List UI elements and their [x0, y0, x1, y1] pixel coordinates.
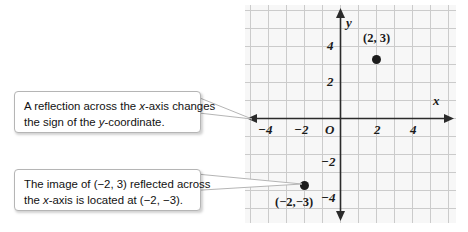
y-axis-label: y [346, 15, 352, 31]
x-axis-label: x [433, 93, 440, 109]
origin-label: O [325, 122, 334, 138]
plot-point-2-3 [372, 55, 381, 64]
x-axis-left-arrowhead [247, 114, 257, 123]
callout-image-location-line2: the x-axis is located at (−2, −3). [24, 193, 191, 208]
callout-image-location-line1: The image of (−2, 3) reflected across [24, 177, 191, 192]
y-tick-label-neg4: −4 [321, 190, 335, 206]
y-axis-bottom-arrowhead [336, 211, 345, 221]
plot-point-neg2-neg3 [300, 181, 309, 190]
plot-point-label-neg2-neg3: (−2,−3) [275, 195, 313, 210]
plot-point-label-2-3: (2, 3) [363, 31, 390, 46]
callout-image-location: The image of (−2, 3) reflected across th… [14, 169, 201, 211]
y-tick-label-4: 4 [327, 38, 334, 54]
callout-reflection-rule-line1: A reflection across the x-axis changes [24, 99, 191, 114]
y-tick-label-neg2: −2 [321, 154, 335, 170]
callout-reflection-rule: A reflection across the x-axis changes t… [14, 91, 201, 133]
x-tick-label-2: 2 [374, 122, 381, 138]
x-tick-label-neg4: −4 [258, 122, 272, 138]
x-tick-label-4: 4 [410, 122, 417, 138]
x-axis-right-arrowhead [444, 114, 454, 123]
callout-reflection-rule-line2: the sign of the y-coordinate. [24, 115, 191, 130]
coordinate-plane-panel: x y O −4 −2 2 4 4 2 −2 −4 (2, 3) (−2,−3) [245, 5, 456, 223]
figure-root: x y O −4 −2 2 4 4 2 −2 −4 (2, 3) (−2,−3)… [0, 0, 468, 232]
axes [245, 5, 456, 223]
y-axis-top-arrowhead [336, 8, 345, 18]
y-tick-label-2: 2 [327, 74, 334, 90]
x-tick-label-neg2: −2 [294, 122, 308, 138]
